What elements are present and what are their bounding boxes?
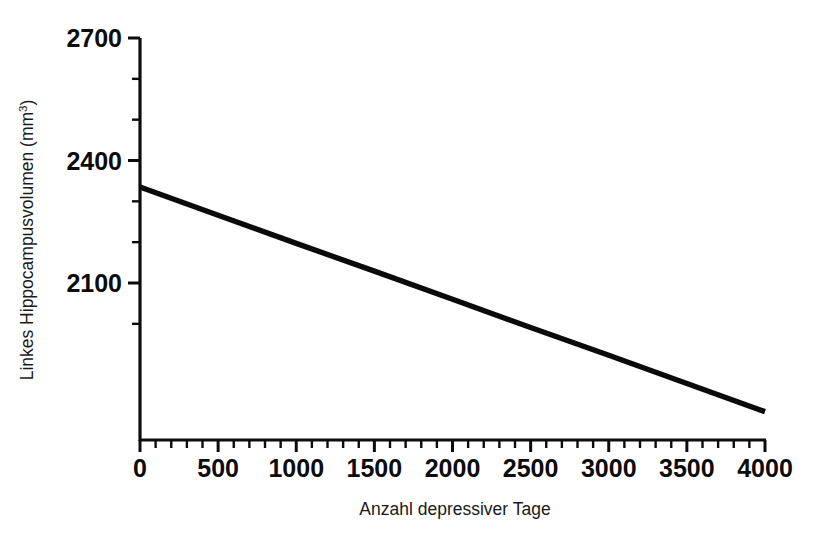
x-axis-tick-labels: 05001000150020002500300035004000 [133, 454, 793, 482]
y-tick-label: 2700 [66, 24, 122, 52]
x-tick-label: 500 [197, 454, 239, 482]
x-tick-label: 2000 [425, 454, 481, 482]
chart-figure: 210024002700 050010001500200025003000350… [0, 0, 820, 547]
y-tick-label: 2400 [66, 147, 122, 175]
y-axis-title: Linkes Hippocampusvolumen (mm3) [17, 100, 37, 381]
y-tick-label: 2100 [66, 269, 122, 297]
x-tick-label: 0 [133, 454, 147, 482]
x-tick-label: 1500 [347, 454, 403, 482]
x-tick-label: 1000 [268, 454, 324, 482]
regression-line [140, 187, 765, 412]
y-axis: 210024002700 [66, 24, 140, 441]
x-axis-title: Anzahl depressiver Tage [359, 499, 550, 519]
x-tick-label: 2500 [503, 454, 559, 482]
x-axis: 05001000150020002500300035004000 [133, 440, 793, 482]
y-axis-title-group: Linkes Hippocampusvolumen (mm3) [17, 100, 37, 381]
x-tick-label: 3000 [581, 454, 637, 482]
y-axis-major-ticks [128, 38, 140, 283]
y-axis-tick-labels: 210024002700 [66, 24, 122, 297]
data-series-group [140, 187, 765, 412]
x-tick-label: 3500 [659, 454, 715, 482]
chart-canvas: 210024002700 050010001500200025003000350… [0, 0, 820, 547]
x-tick-label: 4000 [737, 454, 793, 482]
